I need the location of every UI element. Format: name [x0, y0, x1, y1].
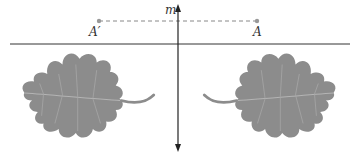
arrow-down-icon: [175, 144, 181, 152]
leaf-body-left: [23, 53, 123, 137]
leaf-stem-left: [121, 95, 153, 103]
leaf-stem-right: [204, 95, 236, 103]
label-a: A: [252, 25, 262, 39]
leaf-image: [23, 53, 154, 137]
leaf-body-right: [235, 53, 335, 137]
point-a: [255, 19, 259, 23]
label-a-prime: A′: [88, 25, 101, 39]
line-label-m: m: [165, 3, 176, 17]
reflection-diagram: m A′ A: [0, 0, 362, 158]
point-a-prime: [97, 19, 101, 23]
leaf-original: [204, 53, 335, 137]
